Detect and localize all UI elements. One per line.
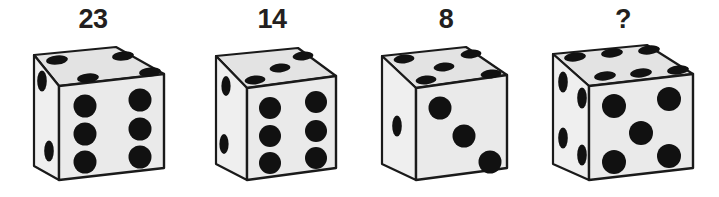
die-illustration bbox=[360, 38, 532, 190]
die-illustration bbox=[4, 38, 182, 190]
die-item: 23 bbox=[4, 0, 182, 197]
die-item: 14 bbox=[186, 0, 358, 197]
die-illustration bbox=[527, 38, 719, 190]
die-left-pips bbox=[392, 116, 402, 137]
die-illustration bbox=[186, 38, 358, 190]
die-label: 14 bbox=[186, 2, 358, 36]
dice-sequence-puzzle: 23 bbox=[0, 0, 719, 197]
die-label: 8 bbox=[360, 2, 532, 36]
die-item: 8 bbox=[360, 0, 532, 197]
die-label: ? bbox=[527, 2, 719, 36]
die-item: ? bbox=[527, 0, 719, 197]
die-label: 23 bbox=[4, 2, 182, 36]
